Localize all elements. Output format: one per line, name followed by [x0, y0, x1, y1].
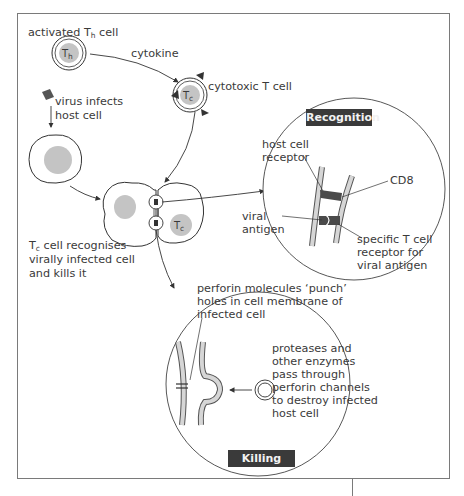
- cytokine-label: cytokine: [131, 47, 179, 60]
- proteases-label-4: perforin channels: [272, 381, 370, 394]
- th-cell-label: Th: [62, 47, 73, 60]
- tc-killer-label: Tc: [174, 219, 184, 232]
- activated-th-label: activated Th cell: [28, 26, 118, 39]
- tc-recognises-label-1: Tc cell recognises: [29, 239, 126, 252]
- viral-antigen-label-1: viral: [242, 210, 266, 223]
- proteases-label-5: to destroy infected: [272, 394, 378, 407]
- tc-killer-cell: [158, 183, 204, 243]
- proteases-label-6: host cell: [272, 407, 319, 420]
- proteases-label-3: pass through: [272, 368, 345, 381]
- proteases-label-2: other enzymes: [272, 355, 355, 368]
- tcr-label-3: viral antigen: [357, 259, 427, 272]
- host-cell-receptor-label-2: receptor: [262, 151, 309, 164]
- tc-receptor-icon: [196, 72, 204, 80]
- killing-badge: Killing: [228, 450, 295, 467]
- viral-antigen-label-2: antigen: [242, 223, 285, 236]
- tc-recognises-label-2: virally infected cell: [29, 253, 135, 266]
- virus-infects-label-2: host cell: [55, 109, 102, 122]
- cd8-label: CD8: [390, 174, 414, 187]
- host-cell-receptor-label-1: host cell: [262, 138, 309, 151]
- perforin-label-3: infected cell: [197, 308, 265, 321]
- host-to-synapse-arrow: [70, 186, 100, 199]
- proteases-label-1: proteases and: [272, 342, 352, 355]
- cytotoxic-label: cytotoxic T cell: [208, 80, 292, 93]
- infected-cell: [103, 182, 156, 246]
- virus-infects-label-1: virus infects: [55, 95, 123, 108]
- tcr-label-1: specific T cell: [357, 233, 432, 246]
- tc-recognises-label-3: and kills it: [29, 267, 86, 280]
- perforin-label-1: perforin molecules ‘punch’: [197, 282, 347, 295]
- recognition-badge: Recognition: [306, 109, 372, 126]
- virus-icon: [42, 89, 54, 100]
- tcr-label-2: receptor for: [357, 246, 423, 259]
- perforin-label-2: holes in cell membrane of: [197, 295, 342, 308]
- host-cell: [29, 135, 82, 183]
- tc-to-synapse-arrow: [165, 112, 195, 182]
- tc-receptor-icon: [201, 109, 209, 116]
- tc-cell-label: Tc: [183, 89, 193, 102]
